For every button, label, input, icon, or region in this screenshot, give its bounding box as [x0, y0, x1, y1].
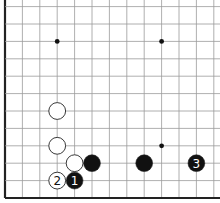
stone-disc: [84, 155, 101, 172]
stone-disc: [66, 155, 83, 172]
white-stone: [49, 103, 66, 120]
stone-disc: [49, 137, 66, 154]
black-stone-3: 3: [188, 155, 205, 172]
go-board: 321: [0, 0, 220, 203]
move-number-label: 2: [53, 174, 61, 188]
board-grid: [5, 0, 220, 198]
black-stone: [136, 155, 153, 172]
star-point: [159, 39, 164, 44]
star-point: [55, 39, 60, 44]
black-stone-1: 1: [66, 172, 83, 189]
stone-disc: [49, 103, 66, 120]
white-stone: [49, 137, 66, 154]
stone-disc: [136, 155, 153, 172]
move-number-label: 1: [71, 174, 79, 188]
star-point: [159, 143, 164, 148]
black-stone: [84, 155, 101, 172]
move-number-label: 3: [193, 157, 201, 171]
white-stone: [66, 155, 83, 172]
white-stone-2: 2: [49, 172, 66, 189]
